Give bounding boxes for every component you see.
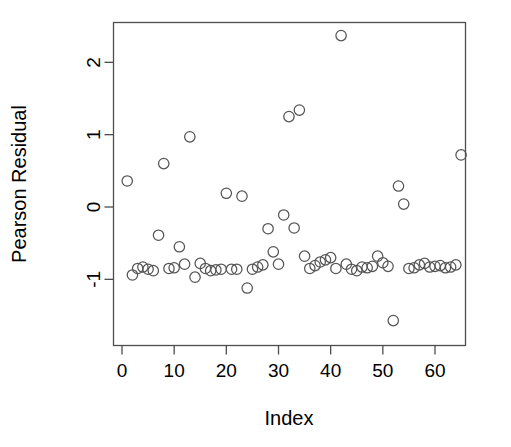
- data-point: [237, 191, 247, 201]
- data-point: [179, 259, 189, 269]
- data-point: [279, 210, 289, 220]
- data-point: [399, 199, 409, 209]
- data-point: [174, 242, 184, 252]
- data-point: [242, 283, 252, 293]
- y-tick-label: 2: [83, 57, 104, 68]
- data-point: [127, 270, 137, 280]
- data-point: [294, 105, 304, 115]
- data-point: [159, 158, 169, 168]
- data-point: [372, 251, 382, 261]
- x-tick-label: 30: [268, 360, 289, 381]
- data-point: [393, 181, 403, 191]
- x-tick-label: 50: [372, 360, 393, 381]
- data-point: [221, 188, 231, 198]
- data-point: [122, 176, 132, 186]
- x-axis-title: Index: [265, 407, 314, 429]
- data-point: [153, 230, 163, 240]
- x-tick-label: 20: [216, 360, 237, 381]
- data-points-layer: [122, 30, 466, 325]
- data-point: [185, 132, 195, 142]
- data-point: [336, 30, 346, 40]
- y-axis-ticks: [105, 62, 114, 279]
- plot-border: [114, 23, 466, 346]
- x-axis-tick-labels: 0102030405060: [117, 360, 446, 381]
- data-point: [268, 247, 278, 257]
- x-tick-label: 0: [117, 360, 128, 381]
- y-axis-title: Pearson Residual: [8, 105, 30, 263]
- data-point: [331, 263, 341, 273]
- y-tick-label: 1: [83, 129, 104, 140]
- x-tick-label: 60: [424, 360, 445, 381]
- scatter-plot-figure: 0102030405060 -1012 Index Pearson Residu…: [0, 0, 511, 447]
- data-point: [388, 315, 398, 325]
- data-point: [289, 223, 299, 233]
- y-tick-label: -1: [83, 271, 104, 288]
- data-point: [263, 224, 273, 234]
- data-point: [284, 111, 294, 121]
- y-tick-label: 0: [83, 202, 104, 213]
- data-point: [273, 259, 283, 269]
- data-point: [190, 272, 200, 282]
- y-axis-tick-labels: -1012: [83, 57, 104, 288]
- data-point: [299, 251, 309, 261]
- plot-frame: [114, 23, 466, 346]
- x-tick-label: 40: [320, 360, 341, 381]
- data-point: [456, 150, 466, 160]
- x-tick-label: 10: [164, 360, 185, 381]
- x-axis-ticks: [122, 346, 435, 355]
- plot-canvas: 0102030405060 -1012 Index Pearson Residu…: [0, 0, 511, 447]
